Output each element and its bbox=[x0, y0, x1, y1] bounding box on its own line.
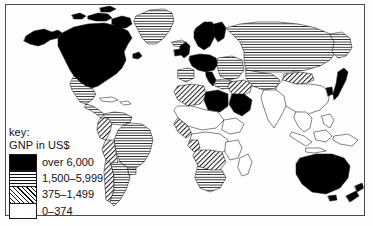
legend-swatch-horizontal-lines bbox=[9, 170, 37, 186]
legend-entry-over-6000: over 6,000 bbox=[9, 154, 125, 170]
region-arctic-islet-b bbox=[100, 6, 116, 12]
region-newfoundland bbox=[133, 52, 142, 59]
region-indonesia-sumatra bbox=[290, 132, 312, 146]
region-hispaniola bbox=[120, 101, 131, 105]
legend-title-subject: GNP in US$ bbox=[9, 139, 125, 152]
region-arctic-islands bbox=[88, 13, 112, 21]
region-borneo bbox=[314, 130, 332, 142]
legend-swatch-blank-white bbox=[9, 203, 37, 219]
region-southern-africa bbox=[195, 166, 226, 192]
region-eastern-europe bbox=[217, 56, 244, 80]
region-new-zealand-south bbox=[346, 191, 359, 202]
gnp-world-map-figure: key: GNP in US$ over 6,000 1,500–5,999 3… bbox=[0, 0, 373, 226]
region-alaska bbox=[24, 29, 62, 46]
region-new-zealand-north bbox=[355, 183, 364, 192]
legend-entry-0-374: 0–374 bbox=[9, 203, 125, 219]
region-australia bbox=[296, 154, 350, 194]
legend-label-over-6000: over 6,000 bbox=[37, 156, 94, 168]
region-new-guinea bbox=[333, 134, 358, 146]
region-saudi-arabia bbox=[229, 94, 252, 116]
region-indochina bbox=[294, 112, 312, 132]
region-india bbox=[261, 90, 286, 128]
legend-swatch-solid-black bbox=[9, 154, 37, 170]
region-arctic-islet-a bbox=[72, 13, 86, 19]
region-east-africa bbox=[225, 140, 242, 160]
region-philippines bbox=[322, 114, 334, 128]
region-japan bbox=[333, 68, 348, 100]
region-uruguay bbox=[128, 168, 136, 175]
region-greenland bbox=[134, 9, 174, 44]
region-madagascar bbox=[238, 154, 252, 176]
region-libya-egypt bbox=[204, 90, 228, 112]
legend-title-key: key: bbox=[9, 126, 125, 139]
legend-entry-375-1499: 375–1,499 bbox=[9, 186, 125, 202]
legend-label-0-374: 0–374 bbox=[37, 205, 73, 217]
legend-label-1500-5999: 1,500–5,999 bbox=[37, 172, 103, 184]
region-scandinavia bbox=[194, 22, 216, 50]
region-baffin-island bbox=[112, 16, 132, 28]
legend-entry-list: over 6,000 1,500–5,999 375–1,499 0–374 bbox=[9, 154, 125, 219]
region-ireland bbox=[174, 49, 181, 56]
region-indonesia-java bbox=[306, 148, 326, 153]
region-canada-usa bbox=[58, 23, 132, 88]
region-italy bbox=[206, 72, 216, 86]
region-middle-east bbox=[228, 80, 252, 96]
region-north-africa-west bbox=[174, 84, 206, 106]
region-central-america bbox=[85, 104, 104, 118]
region-iberia bbox=[178, 68, 194, 82]
region-cuba bbox=[100, 97, 118, 102]
legend-label-375-1499: 375–1,499 bbox=[37, 188, 94, 200]
region-tasmania bbox=[328, 195, 337, 201]
map-legend: key: GNP in US$ over 6,000 1,500–5,999 3… bbox=[9, 126, 125, 219]
region-horn-of-africa bbox=[222, 118, 244, 134]
region-western-europe bbox=[189, 54, 218, 72]
legend-entry-1500-5999: 1,500–5,999 bbox=[9, 170, 125, 186]
legend-swatch-diagonal-hatch bbox=[9, 186, 37, 202]
region-finland bbox=[214, 22, 226, 42]
